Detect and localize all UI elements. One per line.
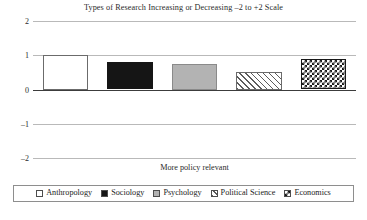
legend-label: Psychology bbox=[163, 189, 201, 197]
bar-political-science bbox=[236, 72, 281, 89]
legend-item-anthropology[interactable]: Anthropology bbox=[36, 189, 92, 197]
plot-area: 210–1–2 bbox=[33, 21, 356, 158]
legend-label: Sociology bbox=[111, 189, 144, 197]
bar-psychology bbox=[172, 64, 217, 90]
y-axis-tick-label: 0 bbox=[25, 85, 29, 94]
legend-label: Political Science bbox=[221, 189, 276, 197]
chart-title: Types of Research Increasing or Decreasi… bbox=[0, 3, 367, 12]
bar-chart-figure: Types of Research Increasing or Decreasi… bbox=[0, 0, 367, 220]
legend-swatch-icon bbox=[153, 190, 160, 197]
bar-economics bbox=[301, 59, 346, 90]
y-axis-tick-label: 2 bbox=[25, 17, 29, 26]
y-axis-tick-label: –1 bbox=[21, 119, 29, 128]
gridline-neg2: –2 bbox=[33, 158, 356, 159]
legend-label: Anthropology bbox=[46, 189, 92, 197]
legend-swatch-icon bbox=[211, 190, 218, 197]
legend-item-sociology[interactable]: Sociology bbox=[101, 189, 144, 197]
legend-swatch-icon bbox=[284, 190, 291, 197]
bars-layer bbox=[33, 21, 356, 158]
x-axis-label: More policy relevant bbox=[33, 163, 356, 172]
chart-legend: AnthropologySociologyPsychologyPolitical… bbox=[13, 185, 354, 202]
legend-label: Economics bbox=[294, 189, 330, 197]
legend-item-economics[interactable]: Economics bbox=[284, 189, 330, 197]
legend-swatch-icon bbox=[36, 190, 43, 197]
bar-anthropology bbox=[43, 55, 88, 89]
legend-swatch-icon bbox=[101, 190, 108, 197]
bar-sociology bbox=[107, 62, 152, 89]
legend-item-political-science[interactable]: Political Science bbox=[211, 189, 276, 197]
y-axis-tick-label: 1 bbox=[25, 51, 29, 60]
legend-item-psychology[interactable]: Psychology bbox=[153, 189, 201, 197]
y-axis-tick-label: –2 bbox=[21, 154, 29, 163]
